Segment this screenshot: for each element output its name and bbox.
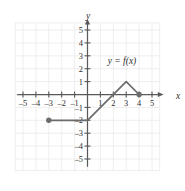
y-tick-label: 1: [79, 78, 83, 87]
y-tick-label: 2: [79, 65, 83, 74]
x-tick-label: –4: [31, 99, 41, 108]
curve-endpoint-dot: [137, 92, 141, 96]
curve-endpoint-dot: [47, 118, 51, 122]
figure-container: –5–4–3–2–112345 54321–1–2–3–4–5 x y y = …: [0, 0, 185, 191]
y-tick-label: –3: [74, 129, 83, 138]
x-axis-label: x: [175, 91, 181, 101]
x-tick-label: –2: [57, 99, 66, 108]
curve-label: y = f(x): [107, 56, 137, 67]
x-tick-label: 5: [150, 99, 154, 108]
y-tick-label: 3: [79, 52, 83, 61]
function-graph: –5–4–3–2–112345 54321–1–2–3–4–5 x y y = …: [0, 0, 185, 191]
x-tick-label: –3: [44, 99, 53, 108]
x-tick-label: –5: [18, 99, 27, 108]
y-tick-label: 4: [79, 39, 84, 48]
x-axis-tick-labels: –5–4–3–2–112345: [18, 99, 154, 108]
x-tick-label: 2: [111, 99, 115, 108]
axes: [17, 19, 163, 167]
y-tick-label: –5: [74, 155, 83, 164]
y-tick-label: 5: [79, 26, 83, 35]
x-tick-label: 4: [137, 99, 142, 108]
y-tick-label: –4: [74, 142, 84, 151]
x-tick-label: 3: [124, 99, 128, 108]
y-tick-label: –1: [74, 104, 83, 113]
y-axis-label: y: [85, 11, 91, 21]
